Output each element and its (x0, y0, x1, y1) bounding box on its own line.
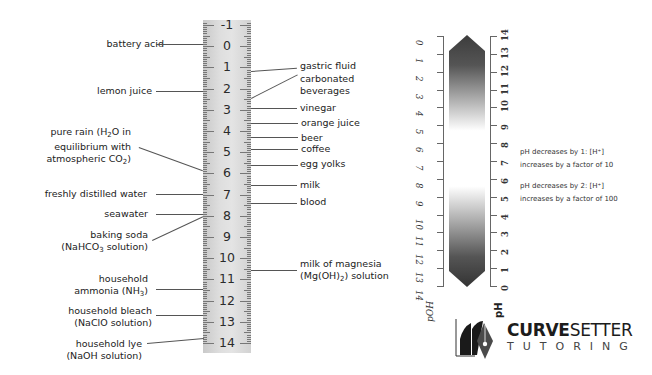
ph-tick (490, 197, 497, 198)
poh-tick-label: 0 (414, 40, 424, 45)
ruler-tick (203, 330, 207, 331)
poh-tick-label: 10 (414, 219, 424, 230)
ruler-number: 11 (203, 272, 251, 286)
ph-tick-label: 13 (500, 47, 510, 59)
ruler-tick (244, 205, 251, 206)
ruler-tick (203, 97, 207, 98)
ruler-number: 3 (203, 103, 251, 117)
ruler-number: 9 (203, 230, 251, 244)
label-blood: blood (300, 196, 326, 208)
poh-tick-label: 13 (414, 272, 424, 283)
ruler-number: 6 (203, 166, 251, 180)
label-orange-juice: orange juice (301, 117, 360, 129)
ph-tick (490, 286, 497, 287)
ph-axis-title: pH (493, 302, 504, 318)
poh-tick (437, 197, 444, 198)
ph-tick-label: 6 (500, 178, 510, 184)
ruler-tick (203, 36, 210, 37)
ph-tick (490, 72, 497, 73)
poh-tick (437, 232, 444, 233)
ruler-tick (244, 290, 251, 291)
ruler-number: 1 (203, 60, 251, 74)
poh-tick (437, 161, 444, 162)
ruler-tick (247, 182, 251, 183)
ruler-tick (203, 55, 207, 56)
ph-tick (490, 179, 497, 180)
ruler-tick (203, 267, 207, 268)
ruler-tick (244, 120, 251, 121)
label-lemon-juice: lemon juice (97, 85, 152, 97)
ruler-tick (247, 76, 251, 77)
label-ammonia: household ammonia (NH3) (74, 273, 148, 300)
ruler-tick (247, 33, 251, 34)
ruler-tick (203, 332, 210, 333)
ph-tick-label: 14 (500, 29, 510, 41)
ph-tick (490, 107, 497, 108)
poh-tick-label: 11 (414, 236, 424, 247)
label-milk: milk (300, 179, 320, 191)
ruler-tick (203, 142, 210, 143)
ruler-number: 5 (203, 145, 251, 159)
ruler-tick (244, 163, 251, 164)
ruler-tick (203, 99, 210, 100)
label-egg-yolks: egg yolks (300, 158, 345, 170)
ruler-tick (203, 226, 210, 227)
poh-tick-label: 7 (414, 165, 424, 170)
ph-tick-label: 5 (500, 196, 510, 202)
ruler-tick (244, 99, 251, 100)
ruler-number: -1 (203, 18, 251, 32)
ruler-tick (244, 332, 251, 333)
ruler-tick (244, 184, 251, 185)
ruler-tick (203, 78, 210, 79)
ph-tick (490, 54, 497, 55)
poh-tick (437, 36, 444, 37)
note-ph-decrease-2: pH decreases by 2: [H⁺] increases by a f… (520, 180, 618, 206)
ruler-tick (247, 288, 251, 289)
leader-seawater (156, 214, 203, 215)
ruler-tick (244, 57, 251, 58)
label-carbonated: carbonated beverages (300, 73, 354, 97)
ruler-tick (203, 245, 207, 246)
poh-tick (437, 72, 444, 73)
ruler-tick (244, 311, 251, 312)
leader-coffee (251, 149, 298, 150)
ph-tick (490, 125, 497, 126)
ph-tick (490, 36, 497, 37)
ph-tick (490, 250, 497, 251)
poh-tick (437, 286, 444, 287)
poh-tick-label: 5 (414, 129, 424, 134)
label-milk-of-magnesia: milk of magnesia (Mg(OH)2) solution (300, 258, 389, 285)
label-gastric-fluid: gastric fluid (300, 60, 356, 72)
ruler-number: 8 (203, 209, 251, 223)
label-baking-soda: baking soda (NaHCO3 solution) (61, 229, 148, 256)
leader-vinegar (251, 108, 297, 109)
ruler-tick (203, 248, 210, 249)
ruler-tick (203, 288, 207, 289)
poh-tick-label: 8 (414, 183, 424, 188)
poh-tick-label: 4 (414, 111, 424, 116)
ruler-number: 0 (203, 39, 251, 53)
poh-tick (437, 143, 444, 144)
ruler-tick (247, 309, 251, 310)
poh-tick (437, 125, 444, 126)
leader-baking-soda (152, 216, 203, 241)
ruler-number: 7 (203, 188, 251, 202)
ph-tick (490, 232, 497, 233)
ruler-tick (244, 226, 251, 227)
leader-blood (251, 203, 297, 204)
leader-lemon-juice (156, 91, 203, 92)
poh-tick-label: 14 (414, 290, 424, 301)
ruler-tick (203, 224, 207, 225)
ph-tick-label: 10 (500, 101, 510, 113)
ruler-tick (247, 330, 251, 331)
ruler-number: 13 (203, 315, 251, 329)
ruler-tick (203, 33, 207, 34)
poh-tick (437, 215, 444, 216)
ruler-tick (203, 163, 210, 164)
ruler-number: 14 (203, 336, 251, 350)
poh-tick (437, 54, 444, 55)
label-distilled-water: freshly distilled water (45, 188, 147, 200)
ph-tick-label: 2 (500, 249, 510, 255)
ph-tick (490, 143, 497, 144)
label-coffee: coffee (301, 143, 330, 155)
